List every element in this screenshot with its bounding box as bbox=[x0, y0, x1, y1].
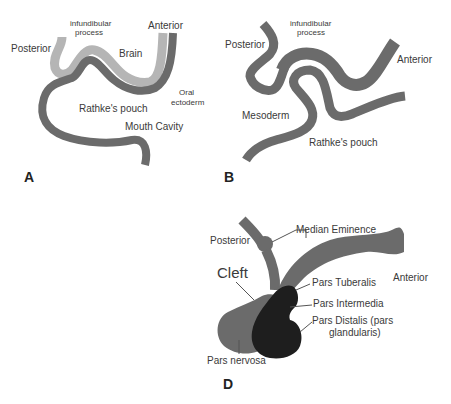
leader-cleft bbox=[236, 282, 254, 300]
label-infundibular-b: infundibular bbox=[290, 19, 332, 28]
infundibular-process-b bbox=[250, 24, 286, 90]
label-brain-a: Brain bbox=[119, 48, 142, 59]
label-pars-nervosa: Pars nervosa bbox=[207, 355, 266, 366]
label-rathke-b: Rathke's pouch bbox=[309, 137, 378, 148]
pars-distalis-shape bbox=[252, 285, 302, 358]
label-infundibular-a: infundibular bbox=[70, 19, 112, 28]
label-pars-tuberalis: Pars Tuberalis bbox=[312, 277, 376, 288]
panel-label-d: D bbox=[223, 376, 233, 392]
label-cleft: Cleft bbox=[217, 264, 249, 281]
label-pars-distalis: Pars Distalis (pars bbox=[312, 315, 393, 326]
infundibular-stalk-d bbox=[266, 250, 275, 290]
label-anterior-a: Anterior bbox=[148, 20, 184, 31]
label-process-b: process bbox=[297, 28, 325, 37]
panel-d: Median Eminence Posterior Cleft Anterior… bbox=[207, 220, 429, 392]
pituitary-development-figure: infundibular process Anterior Posterior … bbox=[0, 0, 451, 404]
panel-label-b: B bbox=[224, 169, 234, 185]
label-mouth-cavity-a: Mouth Cavity bbox=[125, 121, 183, 132]
panel-b: infundibular process Posterior Anterior … bbox=[224, 19, 433, 185]
panel-label-a: A bbox=[24, 169, 34, 185]
label-posterior-b: Posterior bbox=[225, 39, 266, 50]
label-rathke-a: Rathke's pouch bbox=[79, 103, 148, 114]
label-mesoderm-b: Mesoderm bbox=[242, 110, 289, 121]
label-anterior-b: Anterior bbox=[397, 54, 433, 65]
label-pars-intermedia: Pars Intermedia bbox=[313, 298, 384, 309]
label-process-a: process bbox=[75, 28, 103, 37]
leader-distalis bbox=[300, 322, 312, 332]
label-posterior-a: Posterior bbox=[11, 43, 52, 54]
label-posterior-d: Posterior bbox=[210, 235, 251, 246]
label-pars-glandularis: glandularis) bbox=[329, 327, 381, 338]
label-ectoderm-a: ectoderm bbox=[171, 98, 205, 107]
label-oral-a: Oral bbox=[179, 88, 194, 97]
leader-tuberalis bbox=[296, 284, 310, 290]
label-median-eminence: Median Eminence bbox=[296, 224, 376, 235]
panel-a: infundibular process Anterior Posterior … bbox=[11, 19, 205, 185]
label-anterior-d: Anterior bbox=[393, 272, 429, 283]
